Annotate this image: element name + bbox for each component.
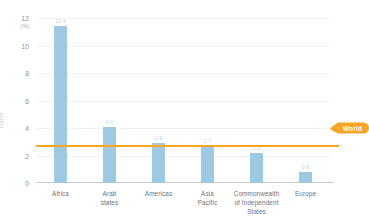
x-axis-category-line: of Independent [228, 198, 286, 207]
gridline [36, 46, 330, 47]
plot-area: 11.44.12.92.72.20.8 [36, 18, 330, 183]
y-axis-tick-label: 10 [9, 42, 29, 49]
y-axis-tick-label: 12 [9, 15, 29, 22]
bar[interactable] [250, 153, 263, 183]
y-axis-tick-label: 8 [9, 70, 29, 77]
bar-value-label: 2.7 [193, 138, 223, 144]
x-axis-category-line: Europe [277, 189, 335, 198]
bar-value-label: 4.1 [95, 119, 125, 125]
y-axis-tick-label: 4 [9, 125, 29, 132]
bar[interactable] [54, 26, 67, 183]
bar[interactable] [201, 146, 214, 183]
gridline [36, 156, 330, 157]
x-axis-category-line: States [228, 207, 286, 216]
y-axis-tick-label: 2 [9, 152, 29, 159]
world-reference-label: World [334, 123, 369, 134]
bar-value-label: 11.4 [46, 18, 76, 24]
gridline [36, 101, 330, 102]
world-reference-line [36, 145, 339, 147]
x-axis-category-line: states [81, 198, 139, 207]
gridline [36, 128, 330, 129]
y-axis-unit-label: (%) [9, 23, 29, 29]
gridline [36, 18, 330, 19]
axis-baseline [36, 182, 334, 183]
y-axis-tick-label: 0 [9, 180, 29, 187]
bar[interactable] [152, 143, 165, 183]
y-axis-tick-label: 6 [9, 97, 29, 104]
bar-value-label: 2.9 [144, 135, 174, 141]
bar[interactable] [299, 172, 312, 183]
gridline [36, 73, 330, 74]
bar[interactable] [103, 127, 116, 183]
bar-value-label: 0.8 [291, 164, 321, 170]
x-axis-category-label: Europe [277, 189, 335, 198]
